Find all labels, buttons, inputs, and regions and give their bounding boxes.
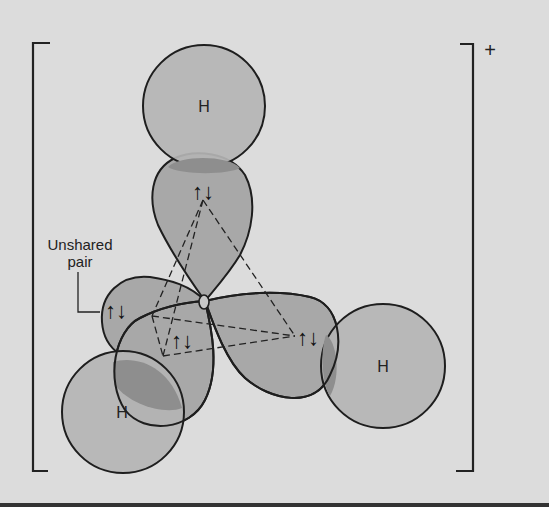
svg-text:Unshared: Unshared xyxy=(47,236,112,253)
oxygen-nucleus xyxy=(199,295,209,309)
bonding-lobe-top xyxy=(152,153,252,301)
spin-pair-right: ↑↓ xyxy=(297,325,319,350)
unshared-pair-annotation: Unshared pair xyxy=(47,236,112,312)
svg-text:↑↓: ↑↓ xyxy=(171,328,193,353)
annotation-leader-line xyxy=(78,272,100,312)
svg-text:H: H xyxy=(198,98,210,115)
hydronium-orbital-diagram: + H H H xyxy=(0,0,549,507)
svg-text:H: H xyxy=(377,358,389,375)
svg-text:↑↓: ↑↓ xyxy=(192,179,214,204)
left-bracket xyxy=(33,43,50,471)
spin-pair-top: ↑↓ xyxy=(192,179,214,204)
svg-text:↑↓: ↑↓ xyxy=(297,325,319,350)
h-atom-bottom-left: H xyxy=(62,351,184,473)
spin-pair-lower-left: ↑↓ xyxy=(171,328,193,353)
spin-pair-unshared: ↑↓ xyxy=(105,298,127,323)
h-atom-right: H xyxy=(321,304,445,428)
right-bracket xyxy=(456,44,473,471)
charge-label: + xyxy=(484,39,496,61)
h-atom-top: H xyxy=(143,45,265,173)
bottom-edge-strip xyxy=(0,503,549,507)
svg-text:↑↓: ↑↓ xyxy=(105,298,127,323)
svg-text:pair: pair xyxy=(67,253,92,270)
